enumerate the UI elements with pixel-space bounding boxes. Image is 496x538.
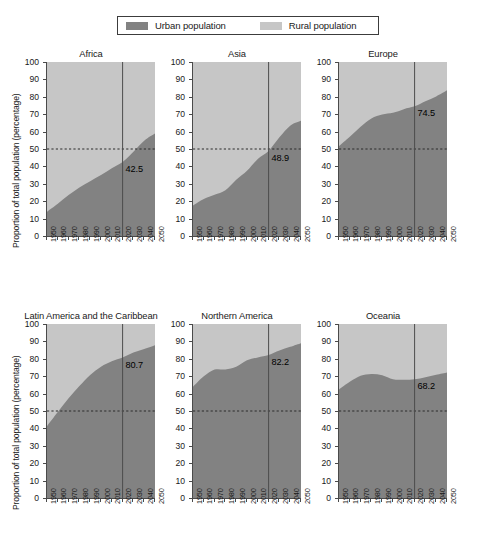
y-tick-label: 20 bbox=[312, 196, 334, 206]
panel-latin-america-and-the-caribbean: Latin America and the Caribbean100908070… bbox=[20, 310, 162, 538]
y-tick-label: 70 bbox=[20, 109, 42, 119]
y-tick-label: 60 bbox=[166, 389, 188, 399]
y-tick-label: 70 bbox=[166, 109, 188, 119]
y-tick-label: 80 bbox=[312, 354, 334, 364]
y-tick-label: 80 bbox=[166, 354, 188, 364]
x-tick-mark bbox=[414, 499, 415, 502]
area-chart-svg bbox=[339, 62, 447, 236]
x-tick-mark bbox=[89, 237, 90, 240]
x-tick-mark bbox=[235, 499, 236, 502]
x-tick-mark bbox=[403, 237, 404, 240]
x-tick-mark bbox=[289, 237, 290, 240]
figure: Urban population Rural population Propor… bbox=[0, 0, 496, 538]
x-tick-mark bbox=[370, 237, 371, 240]
x-tick-mark bbox=[268, 237, 269, 240]
y-tick-label: 70 bbox=[166, 371, 188, 381]
y-tick-label: 100 bbox=[20, 319, 42, 329]
y-tick-label: 0 bbox=[20, 493, 42, 503]
y-tick-label: 100 bbox=[312, 57, 334, 67]
y-tick-label: 60 bbox=[20, 389, 42, 399]
y-tick-label: 0 bbox=[312, 493, 334, 503]
y-tick-label: 80 bbox=[166, 92, 188, 102]
x-tick-mark bbox=[349, 237, 350, 240]
plot-box: 48.9 bbox=[192, 62, 301, 237]
x-tick-mark bbox=[381, 237, 382, 240]
y-tick-label: 10 bbox=[20, 214, 42, 224]
y-tick-label: 80 bbox=[20, 354, 42, 364]
area-chart-svg bbox=[47, 62, 155, 236]
y-tick-label: 90 bbox=[166, 74, 188, 84]
y-tick-label: 60 bbox=[166, 127, 188, 137]
x-tick-mark bbox=[257, 237, 258, 240]
x-tick-mark bbox=[268, 499, 269, 502]
plot-area-wrapper: 100908070605040302010074.519501960197019… bbox=[312, 62, 446, 236]
x-tick-mark bbox=[78, 237, 79, 240]
x-tick-mark bbox=[392, 499, 393, 502]
x-tick-mark bbox=[203, 237, 204, 240]
y-tick-label: 40 bbox=[312, 161, 334, 171]
x-tick-mark bbox=[289, 499, 290, 502]
x-tick-mark bbox=[446, 237, 447, 240]
x-tick-mark bbox=[132, 237, 133, 240]
y-tick-label: 20 bbox=[166, 196, 188, 206]
panel-europe: Europe100908070605040302010074.519501960… bbox=[312, 48, 454, 282]
y-tick-label: 40 bbox=[20, 161, 42, 171]
x-tick-label: 2050 bbox=[449, 226, 458, 242]
y-tick-label: 70 bbox=[20, 371, 42, 381]
x-tick-mark bbox=[338, 237, 339, 240]
y-tick-label: 0 bbox=[166, 493, 188, 503]
y-tick-label: 50 bbox=[166, 144, 188, 154]
plot-area-wrapper: 100908070605040302010068.219501960197019… bbox=[312, 324, 446, 498]
y-tick-label: 30 bbox=[20, 179, 42, 189]
panel-asia: Asia100908070605040302010048.91950196019… bbox=[166, 48, 308, 282]
x-tick-mark bbox=[78, 499, 79, 502]
y-tick-label: 50 bbox=[312, 144, 334, 154]
y-tick-label: 70 bbox=[312, 371, 334, 381]
x-tick-mark bbox=[68, 237, 69, 240]
y-tick-label: 0 bbox=[166, 231, 188, 241]
x-tick-mark bbox=[381, 499, 382, 502]
y-tick-label: 80 bbox=[312, 92, 334, 102]
x-tick-mark bbox=[257, 499, 258, 502]
y-tick-label: 100 bbox=[312, 319, 334, 329]
x-tick-mark bbox=[111, 237, 112, 240]
x-tick-mark bbox=[214, 499, 215, 502]
y-tick-label: 40 bbox=[312, 423, 334, 433]
x-tick-mark bbox=[278, 499, 279, 502]
x-tick-mark bbox=[403, 499, 404, 502]
x-tick-mark bbox=[338, 499, 339, 502]
y-tick-label: 10 bbox=[166, 476, 188, 486]
x-tick-mark bbox=[100, 499, 101, 502]
legend-item-urban: Urban population bbox=[126, 20, 226, 31]
x-tick-mark bbox=[122, 237, 123, 240]
y-tick-label: 0 bbox=[312, 231, 334, 241]
y-tick-label: 70 bbox=[312, 109, 334, 119]
y-tick-label: 90 bbox=[20, 74, 42, 84]
data-value-label-2020: 80.7 bbox=[126, 360, 143, 370]
plot-box: 82.2 bbox=[192, 324, 301, 499]
x-tick-mark bbox=[435, 499, 436, 502]
y-tick-label: 30 bbox=[166, 179, 188, 189]
x-tick-mark bbox=[246, 237, 247, 240]
x-tick-mark bbox=[111, 499, 112, 502]
y-tick-label: 50 bbox=[312, 406, 334, 416]
x-tick-mark bbox=[424, 499, 425, 502]
x-tick-label: 2050 bbox=[449, 488, 458, 504]
y-tick-label: 30 bbox=[312, 441, 334, 451]
x-tick-mark bbox=[414, 237, 415, 240]
x-tick-mark bbox=[300, 499, 301, 502]
x-tick-mark bbox=[370, 499, 371, 502]
area-chart-svg bbox=[193, 324, 301, 498]
plot-box: 42.5 bbox=[46, 62, 155, 237]
y-tick-label: 80 bbox=[20, 92, 42, 102]
legend-label-urban: Urban population bbox=[155, 20, 226, 31]
x-tick-label: 2050 bbox=[303, 488, 312, 504]
y-tick-label: 30 bbox=[20, 441, 42, 451]
x-tick-mark bbox=[246, 499, 247, 502]
plot-box: 68.2 bbox=[338, 324, 447, 499]
y-tick-label: 10 bbox=[166, 214, 188, 224]
panel-oceania: Oceania100908070605040302010068.21950196… bbox=[312, 310, 454, 538]
y-tick-label: 100 bbox=[166, 57, 188, 67]
square-swatch-rural-icon bbox=[260, 22, 282, 30]
x-tick-mark bbox=[46, 499, 47, 502]
